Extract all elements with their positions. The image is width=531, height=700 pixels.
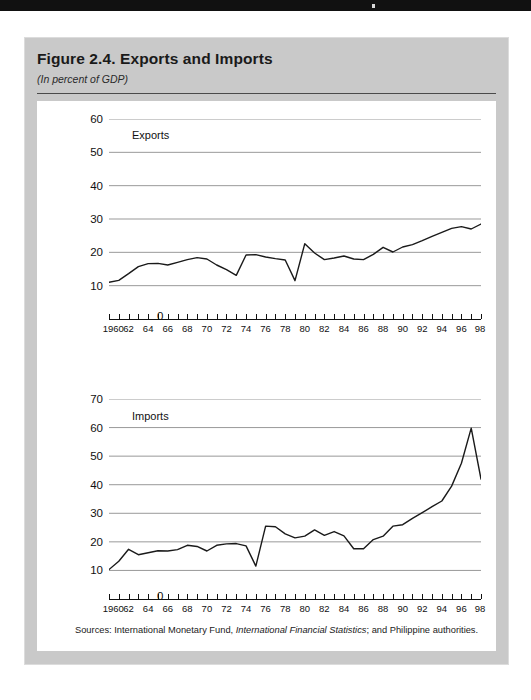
x-tick bbox=[442, 594, 443, 599]
y-tick-label: 30 bbox=[37, 507, 103, 519]
x-tick bbox=[315, 314, 316, 319]
x-tick-label: 68 bbox=[182, 603, 193, 614]
x-tick-label: 94 bbox=[437, 323, 448, 334]
figure-title: Figure 2.4. Exports and Imports bbox=[37, 50, 273, 68]
x-tick bbox=[295, 594, 296, 599]
x-tick bbox=[207, 314, 208, 319]
y-tick-label: 10 bbox=[37, 280, 103, 292]
x-tick bbox=[344, 594, 345, 599]
x-tick bbox=[129, 314, 130, 319]
x-tick bbox=[461, 594, 462, 599]
x-tick-label: 96 bbox=[456, 323, 467, 334]
x-tick-label: 1960 bbox=[103, 603, 124, 614]
x-tick-label: 98 bbox=[475, 323, 486, 334]
x-tick bbox=[207, 594, 208, 599]
x-tick bbox=[266, 594, 267, 599]
exports-axis-line bbox=[109, 319, 481, 320]
x-tick-label: 96 bbox=[456, 603, 467, 614]
y-tick-label: 20 bbox=[37, 536, 103, 548]
exports-x-axis: 0 19606264666870727476788082848688909294… bbox=[109, 319, 481, 343]
x-tick bbox=[197, 594, 198, 599]
x-tick bbox=[452, 594, 453, 599]
x-tick bbox=[324, 594, 325, 599]
x-tick bbox=[412, 594, 413, 599]
x-tick bbox=[295, 314, 296, 319]
source-prefix: Sources: International Monetary Fund, bbox=[75, 625, 236, 635]
x-tick-label: 64 bbox=[143, 323, 154, 334]
x-tick bbox=[236, 594, 237, 599]
x-tick-label: 80 bbox=[299, 323, 310, 334]
x-tick bbox=[109, 314, 110, 319]
x-tick-label: 78 bbox=[280, 323, 291, 334]
x-tick bbox=[285, 594, 286, 599]
x-tick-label: 84 bbox=[339, 323, 350, 334]
x-tick bbox=[226, 314, 227, 319]
x-tick bbox=[187, 594, 188, 599]
x-tick bbox=[403, 594, 404, 599]
x-tick-label: 88 bbox=[378, 323, 389, 334]
x-tick-label: 86 bbox=[358, 603, 369, 614]
x-tick bbox=[383, 314, 384, 319]
imports-chart: 10203040506070 Imports 0 196062646668707… bbox=[37, 387, 496, 647]
x-tick-label: 62 bbox=[123, 323, 134, 334]
x-tick-label: 70 bbox=[202, 603, 213, 614]
x-tick bbox=[187, 314, 188, 319]
x-tick bbox=[334, 314, 335, 319]
x-tick bbox=[168, 594, 169, 599]
x-tick bbox=[138, 594, 139, 599]
x-tick-label: 68 bbox=[182, 323, 193, 334]
x-tick bbox=[471, 314, 472, 319]
x-tick bbox=[158, 594, 159, 599]
x-tick-label: 70 bbox=[202, 323, 213, 334]
imports-y-axis-labels: 10203040506070 bbox=[37, 387, 103, 647]
x-tick bbox=[178, 314, 179, 319]
x-tick-label: 90 bbox=[397, 603, 408, 614]
y-tick-label: 70 bbox=[37, 393, 103, 405]
scan-speck bbox=[372, 4, 375, 8]
x-tick bbox=[403, 314, 404, 319]
title-divider bbox=[37, 93, 496, 94]
x-tick bbox=[481, 594, 482, 599]
x-tick bbox=[236, 314, 237, 319]
data-series-line bbox=[109, 224, 481, 282]
imports-plot-svg bbox=[109, 399, 481, 599]
source-note: Sources: International Monetary Fund, In… bbox=[75, 625, 478, 635]
x-tick-label: 82 bbox=[319, 323, 330, 334]
imports-x-axis: 0 19606264666870727476788082848688909294… bbox=[109, 599, 481, 623]
y-tick-label: 40 bbox=[37, 479, 103, 491]
x-tick bbox=[393, 314, 394, 319]
x-tick bbox=[226, 594, 227, 599]
x-tick bbox=[315, 594, 316, 599]
x-tick bbox=[364, 314, 365, 319]
x-tick bbox=[422, 314, 423, 319]
x-tick bbox=[256, 594, 257, 599]
y-tick-label: 10 bbox=[37, 564, 103, 576]
scan-edge-band bbox=[0, 0, 531, 11]
x-tick-label: 1960 bbox=[103, 323, 124, 334]
x-tick bbox=[168, 314, 169, 319]
x-tick bbox=[373, 314, 374, 319]
x-tick bbox=[354, 314, 355, 319]
x-tick-label: 66 bbox=[162, 603, 173, 614]
x-tick-label: 64 bbox=[143, 603, 154, 614]
x-tick bbox=[275, 594, 276, 599]
x-tick-label: 76 bbox=[260, 323, 271, 334]
x-tick-label: 84 bbox=[339, 603, 350, 614]
x-tick bbox=[461, 314, 462, 319]
y-tick-label: 50 bbox=[37, 146, 103, 158]
x-tick-label: 72 bbox=[221, 323, 232, 334]
x-tick bbox=[129, 594, 130, 599]
x-tick bbox=[305, 314, 306, 319]
x-tick bbox=[393, 594, 394, 599]
x-tick-label: 92 bbox=[417, 603, 428, 614]
y-tick-label: 60 bbox=[37, 422, 103, 434]
x-tick bbox=[344, 314, 345, 319]
x-tick-label: 74 bbox=[241, 323, 252, 334]
x-tick bbox=[246, 314, 247, 319]
source-publication: International Financial Statistics bbox=[236, 625, 367, 635]
x-tick bbox=[285, 314, 286, 319]
x-tick bbox=[432, 594, 433, 599]
x-tick-label: 92 bbox=[417, 323, 428, 334]
source-suffix: ; and Philippine authorities. bbox=[366, 625, 478, 635]
x-tick bbox=[364, 594, 365, 599]
